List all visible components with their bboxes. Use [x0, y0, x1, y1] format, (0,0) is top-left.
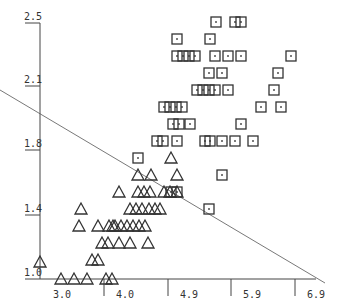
square-marker-dot: [240, 21, 242, 23]
square-marker-dot: [178, 123, 180, 125]
square-marker-dot: [208, 208, 210, 210]
triangle-marker: [86, 254, 98, 265]
square-marker-dot: [221, 72, 223, 74]
triangle-marker: [115, 220, 127, 231]
triangle-marker: [75, 203, 87, 214]
triangle-marker: [124, 237, 136, 248]
square-marker-dot: [181, 106, 183, 108]
decision-boundary-line: [0, 90, 325, 283]
square-marker-dot: [162, 140, 164, 142]
x-tick-label: 4.9: [180, 289, 198, 300]
square-marker-dot: [240, 55, 242, 57]
y-tick-label: 2.1: [24, 74, 42, 85]
square-marker-dot: [208, 72, 210, 74]
triangle-marker: [171, 169, 183, 180]
square-marker-dot: [214, 89, 216, 91]
square-marker-dot: [209, 140, 211, 142]
triangle-marker: [109, 220, 121, 231]
square-marker-dot: [176, 140, 178, 142]
y-tick-label: 1.4: [24, 203, 42, 214]
square-marker-dot: [215, 21, 217, 23]
square-marker-dot: [280, 106, 282, 108]
data-points: [34, 17, 296, 284]
triangle-marker: [165, 152, 177, 163]
triangle-marker: [92, 220, 104, 231]
triangle-marker: [92, 254, 104, 265]
triangle-marker: [124, 203, 136, 214]
square-marker-dot: [214, 55, 216, 57]
triangle-marker: [121, 220, 133, 231]
triangle-marker: [142, 237, 154, 248]
triangle-marker: [144, 186, 156, 197]
triangle-marker: [132, 186, 144, 197]
triangle-marker: [113, 186, 125, 197]
x-tick-label: 3.0: [53, 289, 71, 300]
axis-ticks: [25, 23, 295, 296]
x-tick-label: 4.0: [116, 289, 134, 300]
square-marker-dot: [240, 123, 242, 125]
square-marker-dot: [137, 157, 139, 159]
square-marker-dot: [221, 140, 223, 142]
triangle-marker: [145, 169, 157, 180]
triangle-marker: [130, 203, 142, 214]
scatter-plot: 1.01.41.82.12.53.04.04.95.96.9: [0, 0, 339, 304]
triangle-marker: [127, 220, 139, 231]
y-tick-label: 1.8: [24, 138, 42, 149]
square-marker-dot: [176, 38, 178, 40]
square-marker-dot: [252, 140, 254, 142]
triangle-marker: [113, 237, 125, 248]
triangle-marker: [73, 220, 85, 231]
x-tick-label: 6.9: [307, 289, 325, 300]
square-marker-dot: [227, 89, 229, 91]
square-marker-dot: [189, 123, 191, 125]
square-marker-dot: [277, 72, 279, 74]
y-tick-label: 1.0: [24, 267, 42, 278]
square-marker-dot: [209, 38, 211, 40]
square-marker-dot: [260, 106, 262, 108]
triangle-marker: [138, 186, 150, 197]
triangle-marker: [102, 237, 114, 248]
y-tick-label: 2.5: [24, 11, 42, 22]
square-marker-dot: [176, 191, 178, 193]
x-tick-label: 5.9: [243, 289, 261, 300]
triangle-marker: [133, 220, 145, 231]
triangle-marker: [139, 220, 151, 231]
square-marker-dot: [234, 140, 236, 142]
square-marker-dot: [221, 174, 223, 176]
square-marker-dot: [227, 55, 229, 57]
square-marker-dot: [273, 89, 275, 91]
triangle-marker: [96, 237, 108, 248]
square-marker-dot: [194, 55, 196, 57]
square-marker-dot: [290, 55, 292, 57]
